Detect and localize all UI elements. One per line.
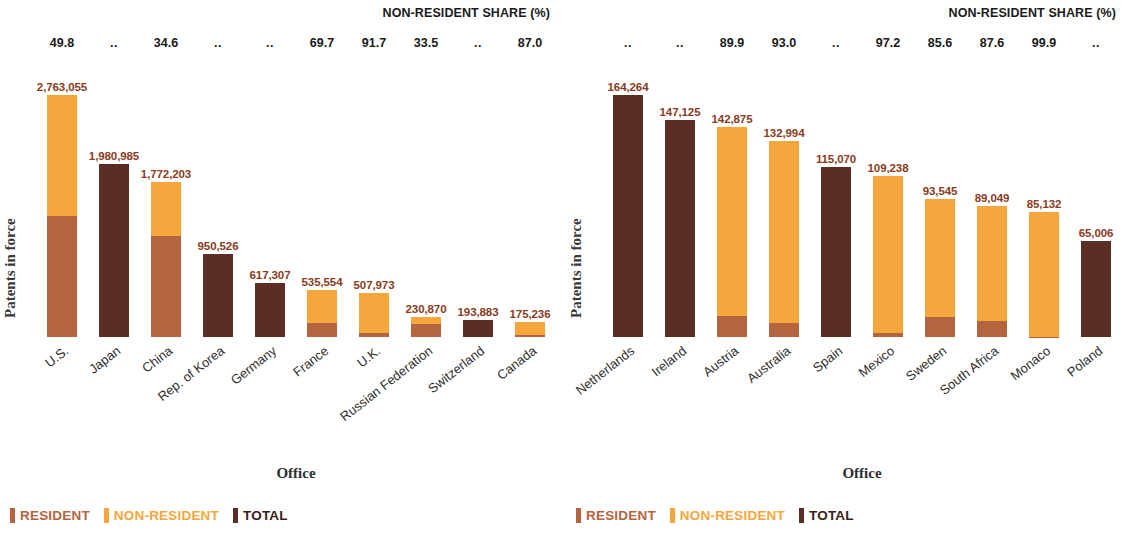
bar-segment-resident <box>151 236 181 338</box>
legend-swatch-resident-icon <box>576 508 581 523</box>
bar-austria[interactable]: 142,875 <box>717 127 747 337</box>
bar-poland[interactable]: 65,006 <box>1081 241 1111 337</box>
legend-swatch-non-resident-icon <box>670 508 675 523</box>
bar-value-label: 175,236 <box>510 308 551 320</box>
bar-value-label: 132,994 <box>764 127 805 139</box>
non-resident-share-row-left: 49.8..34.6....69.791.733.5..87.0 <box>36 34 556 52</box>
bar-france[interactable]: 535,554 <box>307 290 337 337</box>
bar-australia[interactable]: 132,994 <box>769 141 799 337</box>
x-label-slot: South Africa <box>966 339 1018 449</box>
bar-rep-of-korea[interactable]: 950,526 <box>203 254 233 337</box>
x-label-slot: Spain <box>810 339 862 449</box>
x-axis-tick-label: Netherlands <box>573 343 637 398</box>
non-resident-share-value: .. <box>1070 34 1122 52</box>
non-resident-share-value: 69.7 <box>296 34 348 52</box>
bar-segment-total <box>255 283 285 337</box>
non-resident-share-value: .. <box>88 34 140 52</box>
x-axis-labels-left: U.S.JapanChinaRep. of KoreaGermanyFrance… <box>36 339 556 449</box>
bar-segment-non-resident <box>47 95 77 216</box>
x-label-slot: France <box>296 339 348 449</box>
bar-germany[interactable]: 617,307 <box>255 283 285 337</box>
legend-swatch-total-icon <box>799 508 804 523</box>
x-label-slot: Russian Federation <box>400 339 452 449</box>
bar-value-label: 93,545 <box>923 185 958 197</box>
bar-slot: 89,049 <box>966 95 1018 337</box>
bar-segment-non-resident <box>977 206 1007 321</box>
bar-segment-resident <box>925 317 955 337</box>
bar-slot: 950,526 <box>192 95 244 337</box>
y-axis-title-left: Patents in force <box>2 118 24 318</box>
x-axis-title-right: Office <box>602 465 1122 482</box>
x-axis-tick-label: Poland <box>1064 343 1105 380</box>
x-axis-tick-label: U.K. <box>354 343 383 370</box>
bar-value-label: 109,238 <box>868 162 909 174</box>
legend-item-non-resident: NON-RESIDENT <box>104 508 219 523</box>
bar-segment-non-resident <box>925 199 955 317</box>
bar-spain[interactable]: 115,070 <box>821 167 851 337</box>
bar-japan[interactable]: 1,980,985 <box>99 164 129 338</box>
chart-page: NON-RESIDENT SHARE (%) 49.8..34.6....69.… <box>0 0 1132 538</box>
plot-area-left: 2,763,0551,980,9851,772,203950,526617,30… <box>36 95 556 337</box>
bar-slot: 85,132 <box>1018 95 1070 337</box>
bar-segment-total <box>665 120 695 337</box>
bar-value-label: 535,554 <box>302 276 343 288</box>
bar-slot: 1,772,203 <box>140 95 192 337</box>
bar-segment-non-resident <box>359 293 389 334</box>
bar-slot: 2,763,055 <box>36 95 88 337</box>
chart-panel-left: NON-RESIDENT SHARE (%) 49.8..34.6....69.… <box>0 0 566 538</box>
bar-ireland[interactable]: 147,125 <box>665 120 695 337</box>
bar-slot: 507,973 <box>348 95 400 337</box>
bar-switzerland[interactable]: 193,883 <box>463 320 493 337</box>
x-label-slot: Ireland <box>654 339 706 449</box>
bar-segment-total <box>99 164 129 338</box>
x-label-slot: Switzerland <box>452 339 504 449</box>
y-axis-title-right: Patents in force <box>568 118 590 318</box>
bar-netherlands[interactable]: 164,264 <box>613 95 643 337</box>
non-resident-share-value: 49.8 <box>36 34 88 52</box>
non-resident-share-value: 97.2 <box>862 34 914 52</box>
bar-sweden[interactable]: 93,545 <box>925 199 955 337</box>
x-label-slot: Monaco <box>1018 339 1070 449</box>
bar-canada[interactable]: 175,236 <box>515 322 545 337</box>
bar-value-label: 2,763,055 <box>37 81 87 93</box>
bar-slot: 617,307 <box>244 95 296 337</box>
bar-value-label: 65,006 <box>1079 227 1114 239</box>
bar-segment-non-resident <box>151 182 181 236</box>
bar-segment-resident <box>977 321 1007 337</box>
bar-value-label: 193,883 <box>458 306 499 318</box>
x-axis-tick-label: France <box>290 343 331 380</box>
bar-u-k[interactable]: 507,973 <box>359 293 389 337</box>
x-label-slot: Poland <box>1070 339 1122 449</box>
bar-segment-resident <box>359 333 389 337</box>
bar-value-label: 1,980,985 <box>89 150 139 162</box>
x-axis-tick-label: Ireland <box>649 343 690 379</box>
bar-segment-resident <box>769 323 799 337</box>
x-axis-tick-label: U.S. <box>42 343 71 370</box>
bar-value-label: 142,875 <box>712 113 753 125</box>
bar-slot: 132,994 <box>758 95 810 337</box>
bar-segment-non-resident <box>515 322 545 335</box>
legend-label-resident: RESIDENT <box>586 508 656 523</box>
legend-label-total: TOTAL <box>243 508 288 523</box>
bar-russian-federation[interactable]: 230,870 <box>411 317 441 337</box>
x-axis-tick-label: China <box>139 343 175 376</box>
x-label-slot: U.S. <box>36 339 88 449</box>
bar-monaco[interactable]: 85,132 <box>1029 212 1059 337</box>
bar-segment-total <box>613 95 643 337</box>
bar-china[interactable]: 1,772,203 <box>151 182 181 337</box>
bar-mexico[interactable]: 109,238 <box>873 176 903 337</box>
bar-segment-non-resident <box>1029 212 1059 337</box>
bar-value-label: 230,870 <box>406 303 447 315</box>
chart-panel-right: NON-RESIDENT SHARE (%) ....89.993.0..97.… <box>566 0 1132 538</box>
bar-segment-resident <box>717 316 747 337</box>
bar-u-s[interactable]: 2,763,055 <box>47 95 77 337</box>
x-axis-tick-label: Mexico <box>856 343 898 380</box>
legend-label-non-resident: NON-RESIDENT <box>680 508 785 523</box>
bar-value-label: 147,125 <box>660 106 701 118</box>
legend-swatch-non-resident-icon <box>104 508 109 523</box>
bar-segment-non-resident <box>411 317 441 324</box>
bar-south-africa[interactable]: 89,049 <box>977 206 1007 337</box>
bar-slot: 65,006 <box>1070 95 1122 337</box>
non-resident-share-value: 34.6 <box>140 34 192 52</box>
legend-item-total: TOTAL <box>233 508 288 523</box>
